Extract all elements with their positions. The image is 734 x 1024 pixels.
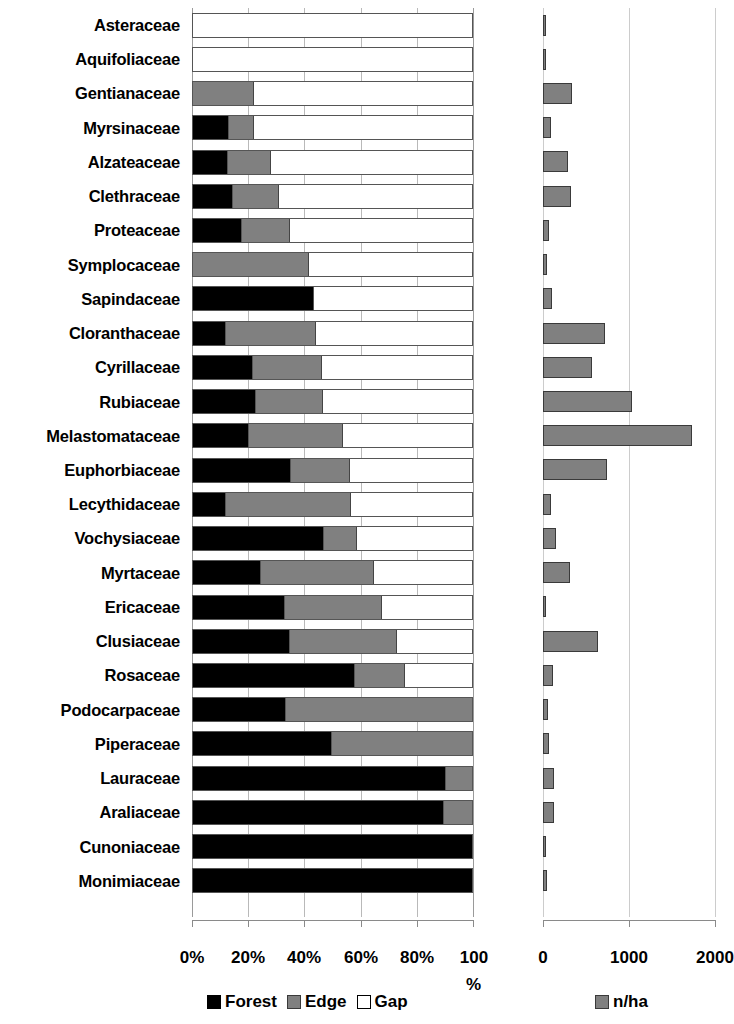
bar-segment-edge [256,390,323,413]
right-xtick-label-1000: 1000 [599,948,659,968]
table-row: Podocarpaceae [0,693,734,727]
bar-segment-forest [193,493,226,516]
density-bar [543,357,592,378]
bar-segment-edge [285,596,382,619]
percent-stacked-bar [192,800,473,825]
table-row: Ericaceae [0,590,734,624]
table-row: Melastomataceae [0,419,734,453]
bar-segment-edge [291,459,350,482]
density-bar [543,117,551,138]
table-row: Lecythidaceae [0,487,734,521]
percent-stacked-bar [192,321,473,346]
bar-segment-forest [193,835,473,858]
category-label: Araliaceae [0,795,180,829]
table-row: Rosaceae [0,658,734,692]
percent-stacked-bar [192,560,473,585]
bar-segment-forest [193,356,253,379]
category-label: Myrtaceae [0,556,180,590]
chart-rows: AsteraceaeAquifoliaceaeGentianaceaeMyrsi… [0,0,734,925]
density-bar [543,15,546,36]
percent-stacked-bar [192,13,473,38]
bar-segment-forest [193,767,446,790]
bar-segment-gap [290,219,473,242]
table-row: Symplocaceae [0,248,734,282]
bar-segment-edge [226,493,351,516]
category-label: Melastomataceae [0,419,180,453]
percent-stacked-bar [192,731,473,756]
bar-segment-gap [279,185,473,208]
category-label: Monimiaceae [0,864,180,898]
percent-stacked-bar [192,81,473,106]
right-tick-0 [543,920,544,927]
table-row: Euphorbiaceae [0,453,734,487]
bar-segment-gap [374,561,473,584]
density-bar [543,528,556,549]
bar-segment-gap [397,630,473,653]
table-row: Araliaceae [0,795,734,829]
category-label: Alzateaceae [0,145,180,179]
bar-segment-forest [193,801,444,824]
table-row: Piperaceae [0,727,734,761]
table-row: Proteaceae [0,213,734,247]
bar-segment-gap [193,14,473,37]
bar-segment-gap [322,356,473,379]
table-row: Alzateaceae [0,145,734,179]
bar-segment-edge [233,185,279,208]
density-bar [543,254,547,275]
category-label: Podocarpaceae [0,693,180,727]
table-row: Cloranthaceae [0,316,734,350]
bar-segment-forest [193,664,355,687]
bar-segment-edge [193,82,254,105]
bar-segment-forest [193,219,242,242]
density-bar [543,494,551,515]
bar-segment-gap [405,664,473,687]
table-row: Clethraceae [0,179,734,213]
density-bar [543,220,549,241]
bar-segment-edge [193,253,309,276]
density-bar [543,870,547,891]
left-xtick-label-0: 0% [162,948,222,968]
category-label: Symplocaceae [0,248,180,282]
bar-segment-edge [290,630,397,653]
forest-swatch-icon [207,995,221,1009]
bar-segment-forest [193,561,261,584]
left-tick-40 [304,920,305,927]
bar-segment-forest [193,287,314,310]
bar-segment-edge [226,322,316,345]
bar-segment-forest [193,869,473,892]
legend-label-nha: n/ha [613,992,648,1012]
density-bar [543,802,554,823]
category-label: Lecythidaceae [0,487,180,521]
bar-segment-gap [316,322,473,345]
percent-stacked-bar [192,252,473,277]
bar-segment-forest [193,596,285,619]
percent-stacked-bar [192,458,473,483]
percent-stacked-bar [192,868,473,893]
category-label: Ericaceae [0,590,180,624]
category-label: Euphorbiaceae [0,453,180,487]
bar-segment-gap [357,527,473,550]
category-label: Cloranthaceae [0,316,180,350]
percent-stacked-bar [192,697,473,722]
percent-stacked-bar [192,115,473,140]
table-row: Sapindaceae [0,282,734,316]
category-label: Aquifoliaceae [0,42,180,76]
left-xtick-label-100: 100 [444,948,504,968]
table-row: Cyrillaceae [0,350,734,384]
category-label: Gentianaceae [0,76,180,110]
percent-stacked-bar [192,355,473,380]
bar-segment-edge [249,424,343,447]
bar-segment-forest [193,185,233,208]
left-xtick-label-40: 40% [274,948,334,968]
bar-segment-forest [193,424,249,447]
table-row: Aquifoliaceae [0,42,734,76]
density-bar [543,288,552,309]
bar-segment-edge [261,561,374,584]
table-row: Lauraceae [0,761,734,795]
percent-stacked-bar [192,492,473,517]
left-axis-line [192,920,474,921]
category-label: Vochysiaceae [0,521,180,555]
bar-segment-edge [228,151,271,174]
category-label: Cyrillaceae [0,350,180,384]
percent-stacked-bar [192,150,473,175]
